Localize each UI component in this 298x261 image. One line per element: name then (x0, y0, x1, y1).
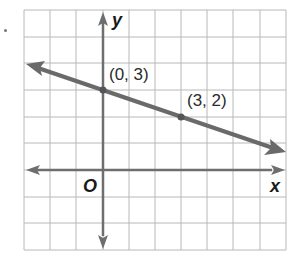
point-label-0-3: (0, 3) (109, 66, 149, 83)
point-3-2 (178, 114, 185, 121)
y-axis-label: y (112, 11, 122, 29)
y-axis (98, 12, 108, 249)
origin-label: O (83, 177, 97, 195)
grid (24, 10, 286, 250)
coordinate-graph (0, 0, 298, 261)
plotted-line (26, 61, 286, 155)
point-0-3 (100, 87, 107, 94)
point-label-3-2: (3, 2) (187, 92, 227, 109)
x-axis-label: x (270, 177, 280, 195)
